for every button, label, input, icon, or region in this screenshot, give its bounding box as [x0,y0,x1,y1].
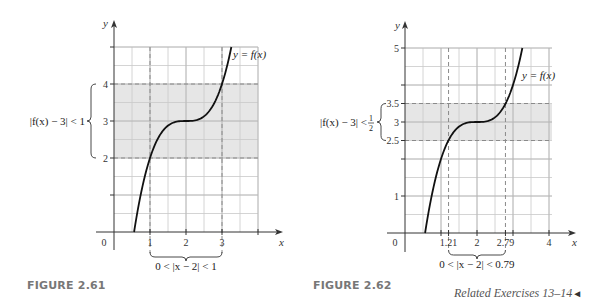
svg-text:3.5: 3.5 [387,98,400,109]
svg-text:3: 3 [394,117,399,128]
x-interval-annotation: 0 < |x − 2| < 1 [155,260,217,272]
svg-text:2.79: 2.79 [497,237,515,248]
svg-text:2.5: 2.5 [387,135,400,146]
svg-text:1: 1 [394,191,399,202]
svg-text:3: 3 [220,237,225,248]
svg-text:2: 2 [475,237,480,248]
figure-2-62-caption: FIGURE 2.62 [313,279,392,292]
related-exercises-note: Related Exercises 13–14◄ [454,286,582,301]
figure-canvas: 0123234xyy = f(x)0 < |x − 2| < 1|f(x) − … [0,0,595,306]
x-axis-label: x [571,236,577,248]
svg-text:4: 4 [547,237,552,248]
x-axis-label: x [278,236,284,248]
svg-text:2: 2 [184,237,189,248]
fraction-denominator: 2 [369,124,373,133]
y-interval-annotation: |f(x) − 3| < 1 [30,115,85,128]
y-axis-label: y [102,17,108,29]
curve-label: y = f(x) [232,48,266,61]
figure-2-62-chart: 01.2122.79412.533.55xyy = f(x)0 < |x − 2… [320,19,577,270]
fraction-numerator: 1 [369,114,373,123]
y-interval-brace [377,104,386,141]
svg-text:4: 4 [103,79,108,90]
figure-2-61-caption: FIGURE 2.61 [27,279,106,292]
svg-text:2: 2 [103,153,108,164]
related-exercises-text: Related Exercises 13–14 [454,286,572,300]
x-interval-annotation: 0 < |x − 2| < 0.79 [439,258,515,270]
figure-2-61-chart: 0123234xyy = f(x)0 < |x − 2| < 1|f(x) − … [30,17,284,272]
grid [114,47,258,232]
svg-text:3: 3 [103,116,108,127]
svg-text:1: 1 [148,237,153,248]
y-axis-label: y [394,19,400,31]
svg-text:5: 5 [394,43,399,54]
left-arrow-icon: ◄ [572,288,582,299]
svg-text:0: 0 [102,237,107,248]
y-interval-annotation: |f(x) − 3| < [320,116,367,129]
curve-label: y = f(x) [521,69,555,82]
svg-text:0: 0 [393,237,398,248]
svg-text:1.21: 1.21 [440,237,458,248]
y-interval-brace [87,84,96,158]
